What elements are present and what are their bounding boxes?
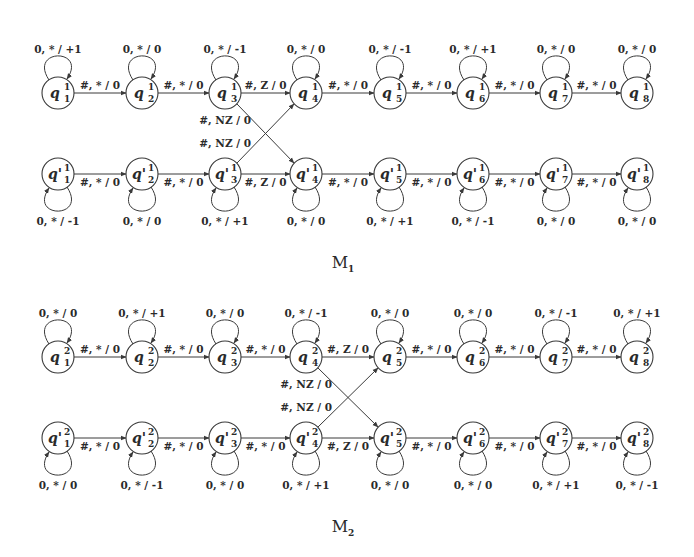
state-superscript: 1 bbox=[312, 163, 318, 173]
diagram-title: M2 bbox=[332, 517, 354, 538]
transition-label: #, * / 0 bbox=[163, 79, 203, 91]
self-loop-label: 0, * / 0 bbox=[206, 479, 245, 491]
transition-label: #, Z / 0 bbox=[327, 343, 369, 355]
state-symbol: q bbox=[50, 349, 60, 365]
self-loop-label: 0, * / 0 bbox=[206, 307, 245, 319]
diagram-title-letter: M bbox=[332, 517, 348, 536]
self-loop-arrow bbox=[211, 56, 238, 80]
state-machine-figure: #, * / 0#, * / 0#, Z / 0#, * / 0#, * / 0… bbox=[0, 0, 694, 557]
state-superscript: 2 bbox=[396, 427, 402, 437]
state-superscript: 2 bbox=[148, 427, 154, 437]
self-loop-label: 0, * / -1 bbox=[204, 43, 247, 55]
state-superscript: 2 bbox=[643, 346, 649, 356]
transition-label: #, * / 0 bbox=[163, 343, 203, 355]
state-symbol: q' bbox=[463, 166, 477, 182]
state-index: 3 bbox=[231, 358, 237, 368]
state-superscript: 1 bbox=[231, 163, 237, 173]
transition-label: #, * / 0 bbox=[163, 176, 203, 188]
state-index: 2 bbox=[148, 94, 154, 104]
self-loop-arrow bbox=[292, 187, 319, 211]
state-superscript: 2 bbox=[479, 346, 485, 356]
state-superscript: 1 bbox=[643, 163, 649, 173]
state-index: 5 bbox=[396, 358, 402, 368]
state-q-prime-7: q'27 bbox=[540, 422, 572, 454]
state-q-prime-4: q'14 bbox=[290, 158, 322, 190]
state-q6: q26 bbox=[457, 341, 489, 373]
state-q4: q14 bbox=[290, 77, 322, 109]
state-index: 4 bbox=[312, 439, 318, 449]
state-symbol: q' bbox=[48, 430, 62, 446]
state-q7: q27 bbox=[540, 341, 572, 373]
state-superscript: 2 bbox=[312, 427, 318, 437]
self-loop-label: 0, * / 0 bbox=[537, 215, 576, 227]
state-q-prime-5: q'25 bbox=[374, 422, 406, 454]
self-loop-arrow bbox=[623, 320, 650, 344]
state-index: 6 bbox=[479, 439, 485, 449]
transition-label: #, * / 0 bbox=[245, 440, 285, 452]
state-index: 5 bbox=[396, 175, 402, 185]
state-index: 2 bbox=[148, 358, 154, 368]
transition-label: #, * / 0 bbox=[494, 79, 534, 91]
state-index: 2 bbox=[148, 175, 154, 185]
transition-label: #, Z / 0 bbox=[244, 176, 286, 188]
transition-label: #, * / 0 bbox=[411, 343, 451, 355]
state-q-prime-6: q'26 bbox=[457, 422, 489, 454]
state-symbol: q bbox=[382, 85, 392, 101]
state-index: 8 bbox=[643, 358, 649, 368]
transition-label: #, * / 0 bbox=[328, 79, 368, 91]
state-symbol: q bbox=[298, 85, 308, 101]
state-index: 1 bbox=[64, 439, 70, 449]
self-loop-label: 0, * / +1 bbox=[366, 215, 413, 227]
state-index: 8 bbox=[643, 439, 649, 449]
state-index: 2 bbox=[148, 439, 154, 449]
self-loop-arrow bbox=[459, 56, 486, 80]
self-loop-arrow bbox=[542, 451, 569, 475]
transition-label: #, * / 0 bbox=[411, 176, 451, 188]
state-q-prime-8: q'28 bbox=[621, 422, 653, 454]
transition-label: #, * / 0 bbox=[245, 343, 285, 355]
self-loop-label: 0, * / 0 bbox=[618, 43, 657, 55]
diagram-title-subscript: 1 bbox=[348, 264, 354, 274]
state-superscript: 1 bbox=[312, 82, 318, 92]
state-superscript: 1 bbox=[396, 82, 402, 92]
state-symbol: q' bbox=[215, 430, 229, 446]
self-loop-label: 0, * / 0 bbox=[454, 307, 493, 319]
state-index: 5 bbox=[396, 94, 402, 104]
transition-label: #, * / 0 bbox=[494, 343, 534, 355]
state-superscript: 2 bbox=[562, 346, 568, 356]
self-loop-arrow bbox=[542, 56, 569, 80]
self-loop-arrow bbox=[211, 187, 238, 211]
self-loop-arrow bbox=[376, 56, 403, 80]
state-symbol: q' bbox=[380, 430, 394, 446]
state-superscript: 2 bbox=[231, 346, 237, 356]
state-superscript: 1 bbox=[64, 163, 70, 173]
transition-label: #, * / 0 bbox=[80, 440, 120, 452]
self-loop-label: 0, * / 0 bbox=[123, 43, 162, 55]
self-loop-label: 0, * / 0 bbox=[371, 307, 410, 319]
state-index: 1 bbox=[64, 94, 70, 104]
state-q-prime-5: q'15 bbox=[374, 158, 406, 190]
state-q-prime-2: q'22 bbox=[126, 422, 158, 454]
state-q-prime-3: q'13 bbox=[209, 158, 241, 190]
self-loop-arrow bbox=[292, 320, 319, 344]
self-loop-arrow bbox=[376, 320, 403, 344]
state-superscript: 2 bbox=[562, 427, 568, 437]
state-symbol: q bbox=[465, 349, 475, 365]
state-q1: q21 bbox=[42, 341, 74, 373]
transition-label: #, * / 0 bbox=[494, 176, 534, 188]
self-loop-label: 0, * / 0 bbox=[123, 215, 162, 227]
state-index: 6 bbox=[479, 94, 485, 104]
state-q-prime-1: q'21 bbox=[42, 422, 74, 454]
state-superscript: 1 bbox=[562, 163, 568, 173]
state-symbol: q' bbox=[546, 166, 560, 182]
cross-label-nz-top: #, NZ / 0 bbox=[199, 114, 251, 126]
state-symbol: q' bbox=[627, 430, 641, 446]
self-loop-arrow bbox=[623, 56, 650, 80]
self-loop-label: 0, * / 0 bbox=[39, 479, 78, 491]
self-loop-label: 0, * / 0 bbox=[287, 43, 326, 55]
state-symbol: q bbox=[548, 349, 558, 365]
state-symbol: q bbox=[50, 85, 60, 101]
state-q-prime-3: q'23 bbox=[209, 422, 241, 454]
state-index: 5 bbox=[396, 439, 402, 449]
state-index: 8 bbox=[643, 175, 649, 185]
